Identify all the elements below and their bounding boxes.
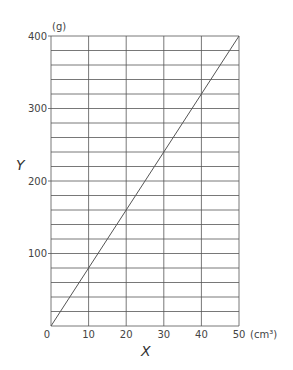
x-unit-label: (cm³) xyxy=(250,329,277,340)
line-chart: 10020030040001020304050 (g) (cm³) Y X xyxy=(0,0,293,370)
x-tick-label: 20 xyxy=(120,329,133,340)
y-tick-label: 300 xyxy=(28,103,47,114)
x-tick-label: 40 xyxy=(195,329,208,340)
y-tick-label: 200 xyxy=(28,176,47,187)
x-tick-label: 0 xyxy=(44,329,50,340)
y-unit-label: (g) xyxy=(52,21,66,32)
y-tick-label: 400 xyxy=(28,31,47,42)
x-tick-label: 50 xyxy=(233,329,246,340)
x-axis-title: X xyxy=(140,343,151,359)
x-tick-label: 10 xyxy=(82,329,95,340)
x-tick-label: 30 xyxy=(157,329,170,340)
y-tick-label: 100 xyxy=(28,248,47,259)
y-axis-title: Y xyxy=(16,157,26,173)
